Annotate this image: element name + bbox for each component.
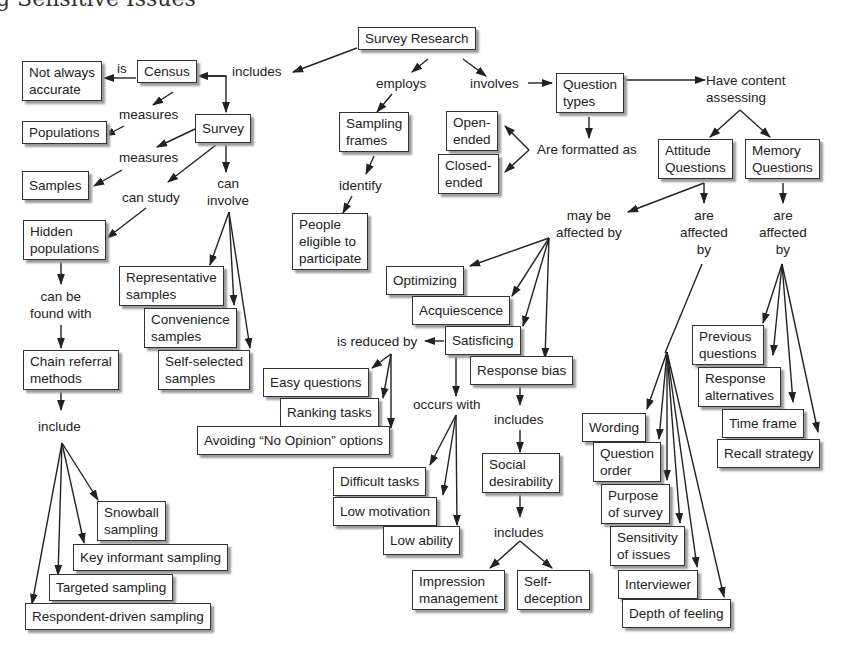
link-includes: includes	[232, 63, 282, 80]
node-interviewer: Interviewer	[618, 570, 698, 599]
node-ranking-tasks: Ranking tasks	[280, 398, 379, 427]
link-survey-measures: measures	[119, 149, 178, 166]
link-may-be-affected-by: may be affected by	[556, 207, 622, 241]
node-survey: Survey	[195, 114, 251, 143]
node-social-desirability: Social desirability	[482, 453, 560, 493]
node-populations: Populations	[22, 121, 107, 144]
node-not-always-accurate: Not always accurate	[22, 61, 102, 101]
node-purpose-of-survey: Purpose of survey	[601, 484, 670, 524]
node-previous-questions: Previous questions	[692, 325, 764, 365]
node-recall-strategy: Recall strategy	[717, 439, 820, 468]
node-optimizing: Optimizing	[386, 266, 464, 295]
link-memory-are-affected-by: are affected by	[759, 207, 807, 258]
node-respondent-driven-sampling: Respondent-driven sampling	[25, 603, 211, 630]
node-attitude-questions: Attitude Questions	[658, 139, 733, 179]
node-closed-ended: Closed- ended	[438, 154, 499, 194]
node-wording: Wording	[582, 413, 646, 442]
node-question-order: Question order	[593, 442, 661, 482]
node-open-ended: Open- ended	[446, 111, 498, 151]
node-snowball-sampling: Snowball sampling	[97, 501, 166, 541]
link-include: include	[38, 418, 81, 435]
node-low-motivation: Low motivation	[333, 497, 437, 526]
node-low-ability: Low ability	[383, 526, 460, 555]
node-key-informant-sampling: Key informant sampling	[73, 544, 228, 571]
node-depth-of-feeling: Depth of feeling	[622, 599, 731, 628]
node-representative-samples: Representative samples	[119, 266, 224, 306]
node-hidden-populations: Hidden populations	[23, 220, 106, 260]
node-satisficing: Satisficing	[445, 326, 521, 355]
link-can-study: can study	[122, 189, 180, 206]
node-samples: Samples	[22, 171, 89, 200]
link-identify: identify	[339, 177, 382, 194]
node-people-eligible: People eligible to participate	[292, 213, 368, 270]
node-memory-questions: Memory Questions	[745, 139, 820, 179]
node-difficult-tasks: Difficult tasks	[333, 467, 426, 496]
node-self-deception: Self- deception	[517, 570, 590, 610]
link-attitude-are-affected-by: are affected by	[680, 207, 728, 258]
link-can-be-found-with: can be found with	[30, 288, 92, 322]
link-have-content-assessing: Have content assessing	[706, 72, 786, 106]
link-involves: involves	[470, 75, 519, 92]
link-employs: employs	[376, 75, 426, 92]
link-is-reduced-by: is reduced by	[337, 333, 417, 350]
node-impression-management: Impression management	[412, 570, 505, 610]
node-targeted-sampling: Targeted sampling	[49, 574, 173, 601]
node-census: Census	[137, 60, 197, 83]
link-response-bias-includes: includes	[494, 411, 544, 428]
link-is: is	[117, 60, 127, 77]
link-census-measures: measures	[119, 106, 178, 123]
link-social-desirability-includes: includes	[494, 524, 544, 541]
node-acquiescence: Acquiescence	[412, 296, 510, 325]
node-avoiding-no-opinion: Avoiding “No Opinion” options	[197, 426, 390, 455]
node-response-bias: Response bias	[470, 356, 573, 385]
node-sampling-frames: Sampling frames	[339, 112, 409, 152]
node-convenience-samples: Convenience samples	[144, 308, 237, 348]
node-question-types: Question types	[556, 73, 624, 113]
node-time-frame: Time frame	[722, 409, 804, 438]
node-easy-questions: Easy questions	[263, 368, 369, 397]
node-chain-referral-methods: Chain referral methods	[23, 350, 119, 390]
node-response-alternatives: Response alternatives	[698, 367, 781, 407]
link-occurs-with: occurs with	[413, 396, 481, 413]
link-are-formatted-as: Are formatted as	[537, 141, 637, 158]
node-sensitivity-of-issues: Sensitivity of issues	[610, 526, 685, 566]
node-self-selected-samples: Self-selected samples	[158, 350, 250, 390]
node-survey-research: Survey Research	[358, 27, 476, 50]
link-can-involve: can involve	[207, 175, 249, 209]
